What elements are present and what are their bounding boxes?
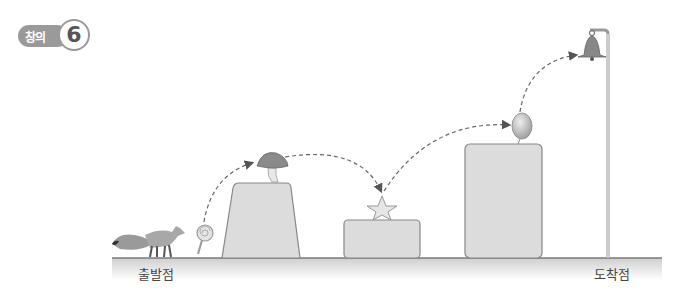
star-icon [367,196,397,220]
bell-post [590,30,608,258]
trapezoid-platform [222,183,300,258]
arrow-balloon-to-bell [520,55,576,112]
path-diagram [0,0,677,301]
fox-icon [112,226,185,257]
start-label: 출발점 [138,264,174,283]
bell-icon [578,31,606,62]
balloon-icon [512,113,532,144]
tall-platform [465,144,542,258]
low-platform [344,220,420,258]
lollipop-icon [197,225,213,254]
arrow-mushroom-to-star [285,155,381,191]
finish-label: 도착점 [594,264,630,283]
mushroom-icon [257,153,288,182]
ground [112,258,662,280]
